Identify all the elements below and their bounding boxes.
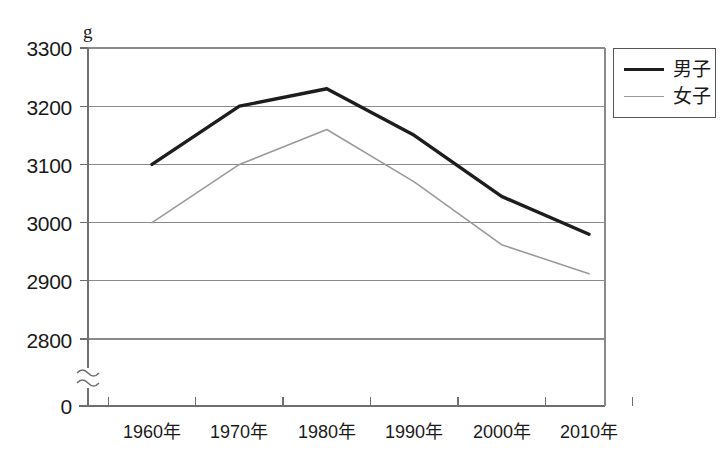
y-axis-break-icon [77, 370, 99, 386]
chart-container: g 3300 3200 3100 3000 2900 2800 0 1960年 … [0, 0, 723, 468]
legend: 男子 女子 [613, 48, 716, 118]
gridlines [80, 48, 605, 339]
legend-line-swatch-boys [624, 63, 664, 77]
legend-label-boys: 男子 [673, 60, 711, 79]
legend-item-girls: 女子 [624, 83, 703, 110]
data-series-layer [152, 89, 589, 274]
axes [79, 48, 605, 406]
legend-label-girls: 女子 [673, 87, 711, 106]
legend-line-swatch-girls [624, 90, 664, 104]
x-axis-ticks [108, 397, 632, 406]
legend-item-boys: 男子 [624, 56, 703, 83]
